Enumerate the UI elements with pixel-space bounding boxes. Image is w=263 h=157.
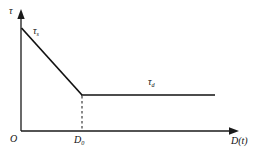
- dynamic-stress-subscript: d: [152, 81, 155, 88]
- static-stress-subscript: s: [37, 30, 39, 37]
- x-axis-label: D(t): [231, 136, 248, 146]
- y-axis-arrowhead: [17, 9, 24, 19]
- x-axis-arrowhead: [229, 127, 239, 134]
- origin-label: O: [10, 134, 17, 144]
- x-axis-label-arg: (t): [238, 135, 247, 146]
- dynamic-stress-label: τd: [148, 77, 155, 88]
- y-axis-label: τ: [9, 6, 13, 16]
- chart-canvas: [0, 0, 263, 157]
- static-stress-label: τs: [33, 26, 39, 37]
- breakpoint-tick-label: D0: [74, 135, 84, 146]
- descending-branch: [22, 28, 83, 95]
- figure-container: τ τs τd O D0 D(t): [0, 0, 263, 157]
- breakpoint-subscript: 0: [81, 139, 84, 146]
